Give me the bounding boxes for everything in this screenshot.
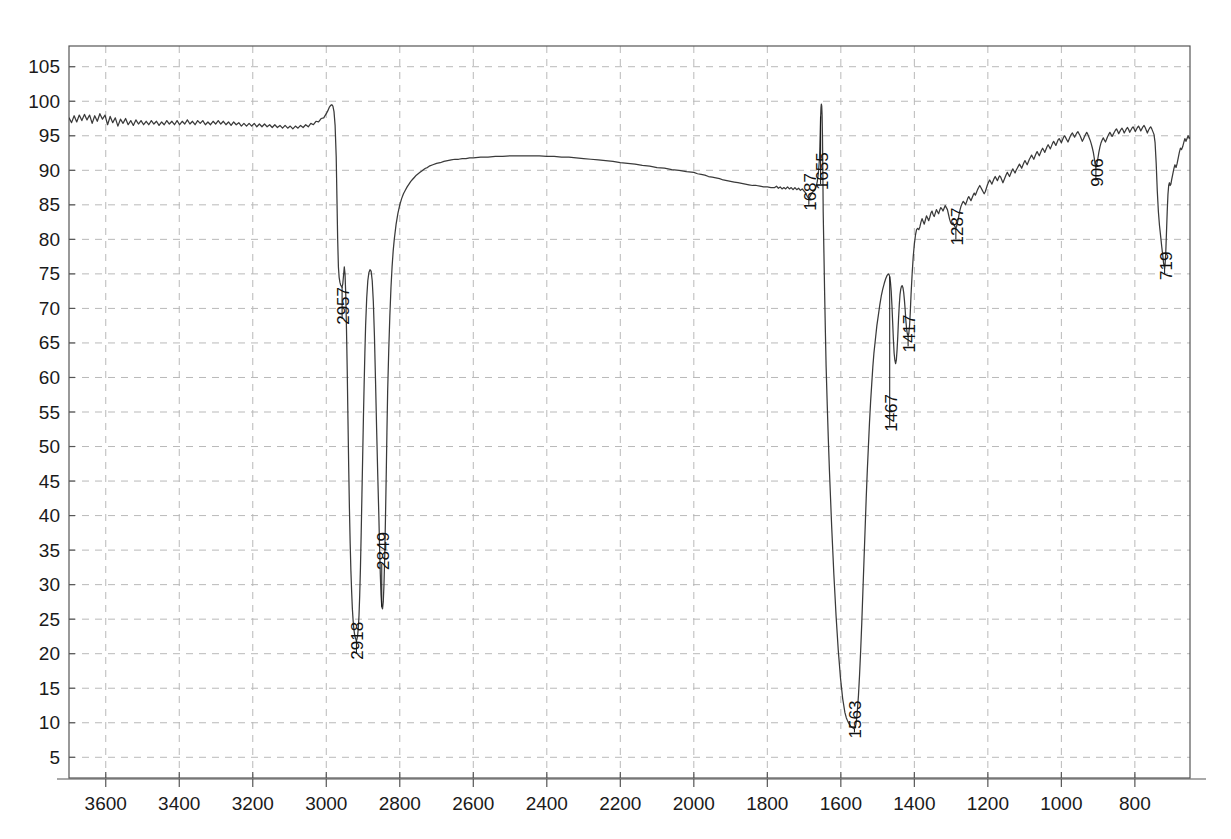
- peak-906-label: 906: [1088, 158, 1107, 186]
- x-tick-label: 2000: [673, 793, 715, 814]
- x-tick-label: 1800: [746, 793, 788, 814]
- x-tick-label: 1600: [820, 793, 862, 814]
- x-tick-label: 1000: [1040, 793, 1082, 814]
- y-tick-label: 55: [39, 402, 60, 423]
- x-tick-label: 3400: [158, 793, 200, 814]
- y-tick-label: 80: [39, 229, 60, 250]
- y-tick-label: 25: [39, 609, 60, 630]
- peak-2957-label: 2957: [334, 287, 353, 325]
- y-tick-label: 95: [39, 125, 60, 146]
- y-tick-label: 90: [39, 160, 60, 181]
- y-tick-label: 30: [39, 574, 60, 595]
- y-tick-label: 40: [39, 505, 60, 526]
- y-tick-label: 105: [28, 56, 60, 77]
- spectrum-plot-area: 5101520253035404550556065707580859095100…: [0, 0, 1231, 839]
- x-tick-label: 2200: [599, 793, 641, 814]
- y-tick-label: 65: [39, 332, 60, 353]
- y-tick-label: 45: [39, 471, 60, 492]
- peak-1563-label: 1563: [846, 701, 865, 739]
- y-tick-label: 5: [49, 747, 60, 768]
- y-tick-label: 85: [39, 194, 60, 215]
- x-tick-label: 2800: [379, 793, 421, 814]
- peak-719-label: 719: [1157, 252, 1176, 280]
- peak-1655-label: 1655: [813, 152, 832, 190]
- x-tick-label: 1200: [967, 793, 1009, 814]
- y-tick-label: 50: [39, 436, 60, 457]
- y-tick-label: 10: [39, 712, 60, 733]
- ir-spectrum-chart: 5101520253035404550556065707580859095100…: [0, 0, 1231, 839]
- y-tick-label: 20: [39, 643, 60, 664]
- y-tick-label: 15: [39, 678, 60, 699]
- x-tick-label: 3600: [85, 793, 127, 814]
- y-tick-label: 70: [39, 298, 60, 319]
- x-tick-label: 1400: [893, 793, 935, 814]
- y-tick-label: 35: [39, 540, 60, 561]
- peak-2849-label: 2849: [374, 532, 393, 570]
- x-tick-label: 3000: [305, 793, 347, 814]
- x-tick-label: 800: [1119, 793, 1151, 814]
- peak-1467-label: 1467: [882, 394, 901, 432]
- y-tick-label: 60: [39, 367, 60, 388]
- x-tick-label: 2600: [452, 793, 494, 814]
- y-tick-label: 100: [28, 91, 60, 112]
- peak-1417-label: 1417: [900, 315, 919, 353]
- peak-1287-label: 1287: [948, 208, 967, 246]
- peak-2918-label: 2918: [348, 622, 367, 660]
- x-tick-label: 3200: [232, 793, 274, 814]
- x-tick-label: 2400: [526, 793, 568, 814]
- y-tick-label: 75: [39, 263, 60, 284]
